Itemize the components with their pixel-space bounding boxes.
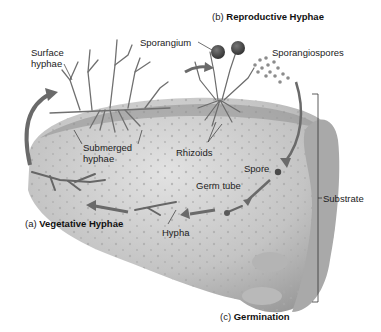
spore (275, 169, 281, 175)
label-spore: Spore (244, 163, 269, 174)
label-germ-tube: Germ tube (196, 180, 241, 191)
substrate-shape (28, 98, 339, 313)
sporangium-2 (231, 41, 245, 55)
label-hypha: Hypha (162, 227, 189, 238)
section-b-title: (b) Reproductive Hyphae (212, 11, 324, 22)
label-substrate: Substrate (323, 193, 364, 204)
section-a-title: (a) Vegetative Hyphae (25, 218, 123, 229)
label-rhizoids: Rhizoids (176, 147, 212, 158)
sporangiospores (253, 56, 290, 84)
label-submerged-hyphae: Submerged hyphae (83, 142, 132, 164)
fungal-life-cycle-diagram: (b) Reproductive Hyphae Surface hyphae S… (0, 0, 381, 332)
section-c-title: (c) Germination (220, 311, 290, 322)
label-surface-hyphae: Surface hyphae (31, 47, 64, 69)
label-sporangiospores: Sporangiospores (272, 47, 344, 58)
label-sporangium: Sporangium (140, 37, 191, 48)
sporangium-1 (211, 45, 225, 59)
